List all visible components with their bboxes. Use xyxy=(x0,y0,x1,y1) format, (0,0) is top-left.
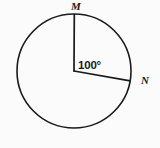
circle-diagram: M N 100° xyxy=(0,0,160,148)
point-label-n: N xyxy=(140,74,150,86)
point-label-m: M xyxy=(70,0,82,12)
central-angle-label: 100° xyxy=(78,59,102,71)
geometry-figure: M N 100° xyxy=(0,0,160,148)
radius-to-n-line xyxy=(74,71,130,81)
